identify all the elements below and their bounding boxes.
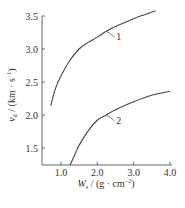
y-tick-label: 3.0 xyxy=(26,44,39,55)
y-tick-label: 2.0 xyxy=(26,110,39,121)
x-axis-label: Ws / (g · cm−2) xyxy=(77,178,134,190)
series-curve-2 xyxy=(70,91,170,165)
series-leader-line xyxy=(106,31,114,37)
y-tick-label: 2.5 xyxy=(26,77,39,88)
data-series: 12 xyxy=(51,11,170,165)
y-tick-label: 3.5 xyxy=(26,11,39,22)
series-label-2: 2 xyxy=(116,115,121,126)
x-tick-label: 1.0 xyxy=(55,167,68,178)
series-curve-1 xyxy=(51,11,156,106)
series-label-1: 1 xyxy=(116,31,121,42)
y-tick-label: 1.5 xyxy=(26,143,39,154)
x-tick-label: 2.0 xyxy=(91,167,104,178)
x-tick-label: 4.0 xyxy=(164,167,177,178)
x-tick-label: 3.0 xyxy=(127,167,140,178)
x-axis-ticks: 1.02.03.04.0 xyxy=(55,162,177,178)
line-chart: 1.02.03.04.0 1.52.02.53.03.5 12 Ws / (g … xyxy=(0,0,185,208)
y-axis-label: vd / (km · s−1) xyxy=(6,68,18,121)
series-leader-line xyxy=(106,115,114,121)
axes xyxy=(42,16,172,165)
